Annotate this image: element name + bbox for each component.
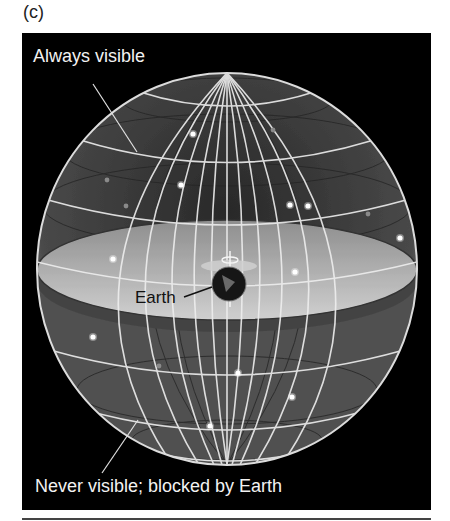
star-icon xyxy=(105,178,110,183)
earth-globe-icon xyxy=(212,267,246,301)
star-icon xyxy=(190,131,195,136)
star-icon xyxy=(271,128,276,133)
star-icon xyxy=(305,203,310,208)
star-icon xyxy=(157,364,162,369)
star-icon xyxy=(124,204,129,209)
star-icon xyxy=(90,334,95,339)
star-icon xyxy=(287,202,292,207)
star-icon xyxy=(366,212,371,217)
celestial-sphere-icon xyxy=(0,0,450,521)
star-icon xyxy=(207,423,212,428)
star-icon xyxy=(289,394,294,399)
star-icon xyxy=(292,269,297,274)
star-icon xyxy=(235,370,240,375)
label-earth: Earth xyxy=(135,288,176,308)
label-always-visible: Always visible xyxy=(33,46,145,67)
label-never-visible: Never visible; blocked by Earth xyxy=(35,476,282,497)
star-icon xyxy=(110,256,115,261)
star-icon xyxy=(178,182,183,187)
star-icon xyxy=(397,235,402,240)
